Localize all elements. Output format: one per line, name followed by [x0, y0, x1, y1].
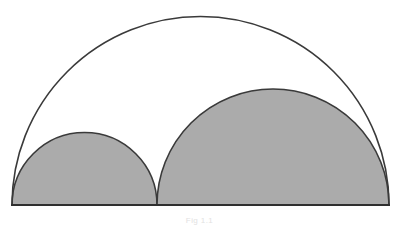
- figure-caption: Fig 1.1: [0, 216, 399, 226]
- arbelos-diagram: [0, 0, 399, 227]
- geometry-figure: Fig 1.1: [0, 0, 399, 227]
